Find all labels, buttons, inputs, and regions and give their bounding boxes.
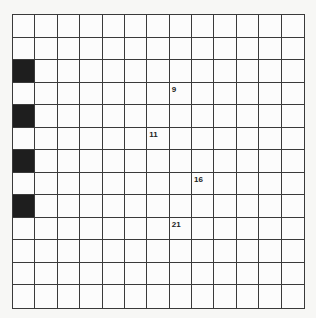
grid-cell[interactable] bbox=[259, 83, 281, 106]
grid-cell[interactable] bbox=[13, 173, 35, 196]
grid-cell[interactable] bbox=[192, 218, 214, 241]
grid-cell[interactable] bbox=[35, 128, 57, 151]
grid-cell[interactable] bbox=[214, 150, 236, 173]
grid-cell[interactable] bbox=[214, 128, 236, 151]
grid-cell[interactable] bbox=[80, 15, 102, 38]
grid-cell[interactable] bbox=[192, 60, 214, 83]
grid-cell[interactable] bbox=[170, 195, 192, 218]
grid-cell[interactable] bbox=[125, 285, 147, 308]
grid-cell[interactable] bbox=[282, 218, 304, 241]
grid-cell[interactable] bbox=[80, 285, 102, 308]
grid-cell[interactable] bbox=[103, 60, 125, 83]
grid-cell[interactable] bbox=[214, 15, 236, 38]
grid-cell[interactable] bbox=[214, 240, 236, 263]
grid-cell[interactable] bbox=[58, 105, 80, 128]
grid-cell[interactable] bbox=[103, 263, 125, 286]
grid-cell[interactable] bbox=[125, 83, 147, 106]
grid-cell[interactable] bbox=[192, 105, 214, 128]
grid-cell[interactable] bbox=[103, 150, 125, 173]
grid-cell[interactable] bbox=[282, 105, 304, 128]
grid-cell[interactable] bbox=[282, 128, 304, 151]
grid-cell[interactable] bbox=[13, 218, 35, 241]
grid-cell[interactable] bbox=[80, 240, 102, 263]
grid-cell[interactable] bbox=[58, 218, 80, 241]
grid-cell[interactable] bbox=[80, 263, 102, 286]
grid-cell[interactable] bbox=[80, 105, 102, 128]
grid-cell[interactable] bbox=[170, 60, 192, 83]
grid-cell[interactable] bbox=[192, 150, 214, 173]
grid-cell[interactable] bbox=[147, 150, 169, 173]
grid-cell[interactable] bbox=[259, 195, 281, 218]
grid-cell[interactable] bbox=[58, 128, 80, 151]
grid-cell[interactable] bbox=[13, 15, 35, 38]
grid-cell[interactable] bbox=[147, 15, 169, 38]
grid-cell[interactable] bbox=[125, 173, 147, 196]
grid-cell[interactable] bbox=[35, 285, 57, 308]
grid-cell[interactable] bbox=[237, 15, 259, 38]
grid-cell[interactable] bbox=[170, 38, 192, 61]
grid-cell[interactable] bbox=[35, 240, 57, 263]
grid-cell[interactable] bbox=[237, 263, 259, 286]
grid-cell[interactable] bbox=[13, 83, 35, 106]
grid-cell[interactable] bbox=[237, 105, 259, 128]
grid-cell[interactable] bbox=[237, 173, 259, 196]
grid-cell[interactable] bbox=[125, 60, 147, 83]
grid-cell[interactable] bbox=[80, 218, 102, 241]
grid-cell[interactable] bbox=[282, 15, 304, 38]
grid-cell[interactable] bbox=[13, 240, 35, 263]
grid-cell[interactable] bbox=[147, 195, 169, 218]
grid-cell[interactable] bbox=[282, 263, 304, 286]
grid-cell[interactable] bbox=[214, 38, 236, 61]
grid-cell[interactable] bbox=[125, 15, 147, 38]
grid-cell[interactable] bbox=[282, 60, 304, 83]
grid-cell[interactable] bbox=[214, 60, 236, 83]
grid-cell[interactable] bbox=[58, 83, 80, 106]
grid-cell[interactable] bbox=[214, 263, 236, 286]
grid-cell[interactable] bbox=[192, 15, 214, 38]
grid-cell[interactable] bbox=[170, 150, 192, 173]
grid-cell[interactable] bbox=[214, 173, 236, 196]
grid-cell[interactable]: 9 bbox=[170, 83, 192, 106]
grid-cell[interactable] bbox=[282, 83, 304, 106]
grid-cell[interactable] bbox=[125, 218, 147, 241]
grid-cell[interactable] bbox=[214, 195, 236, 218]
grid-cell[interactable] bbox=[259, 218, 281, 241]
grid-cell[interactable] bbox=[170, 15, 192, 38]
grid-cell[interactable] bbox=[125, 195, 147, 218]
grid-cell[interactable] bbox=[103, 128, 125, 151]
grid-cell[interactable] bbox=[35, 60, 57, 83]
grid-cell[interactable]: 16 bbox=[192, 173, 214, 196]
grid-cell[interactable] bbox=[147, 83, 169, 106]
grid-cell[interactable] bbox=[80, 150, 102, 173]
grid-cell[interactable] bbox=[282, 150, 304, 173]
grid-cell[interactable] bbox=[58, 173, 80, 196]
grid-cell[interactable] bbox=[147, 285, 169, 308]
grid-cell[interactable] bbox=[35, 83, 57, 106]
grid-cell[interactable] bbox=[214, 218, 236, 241]
grid-cell[interactable] bbox=[80, 60, 102, 83]
grid-cell[interactable] bbox=[58, 240, 80, 263]
grid-cell[interactable] bbox=[214, 105, 236, 128]
grid-cell[interactable] bbox=[192, 128, 214, 151]
grid-cell[interactable] bbox=[170, 285, 192, 308]
grid-cell[interactable] bbox=[237, 195, 259, 218]
grid-cell[interactable] bbox=[80, 128, 102, 151]
grid-cell[interactable] bbox=[259, 173, 281, 196]
grid-cell[interactable] bbox=[237, 218, 259, 241]
grid-cell[interactable]: 11 bbox=[147, 128, 169, 151]
grid-cell[interactable] bbox=[259, 15, 281, 38]
grid-cell[interactable] bbox=[125, 240, 147, 263]
grid-cell[interactable] bbox=[103, 173, 125, 196]
grid-cell[interactable] bbox=[125, 150, 147, 173]
grid-cell[interactable] bbox=[35, 38, 57, 61]
grid-cell[interactable] bbox=[58, 38, 80, 61]
grid-cell[interactable] bbox=[237, 285, 259, 308]
grid-cell[interactable] bbox=[282, 240, 304, 263]
grid-cell[interactable] bbox=[282, 38, 304, 61]
grid-cell[interactable] bbox=[147, 105, 169, 128]
grid-cell[interactable] bbox=[147, 173, 169, 196]
grid-cell[interactable] bbox=[170, 105, 192, 128]
grid-cell[interactable] bbox=[282, 285, 304, 308]
grid-cell[interactable] bbox=[80, 38, 102, 61]
grid-cell[interactable] bbox=[147, 38, 169, 61]
